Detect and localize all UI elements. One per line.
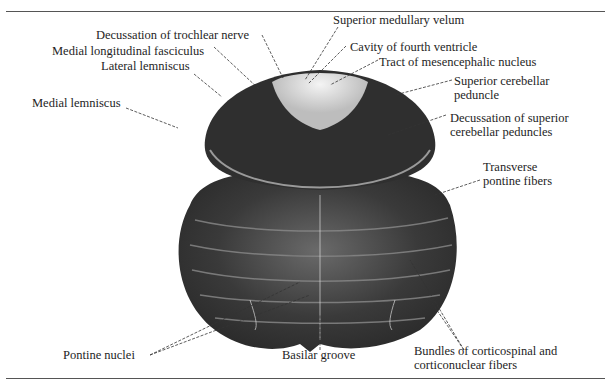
label-cavity-fourth-ventricle: Cavity of fourth ventricle [350, 40, 477, 54]
label-superior-cerebellar-peduncle-1: Superior cerebellar [454, 74, 549, 88]
label-bundles-1: Bundles of corticospinal and [414, 344, 557, 358]
label-bundles-2: corticonuclear fibers [414, 358, 517, 372]
label-transverse-pontine-1: Transverse [483, 160, 537, 174]
label-superior-cerebellar-peduncle-2: peduncle [454, 88, 499, 102]
label-pontine-nuclei: Pontine nuclei [63, 348, 135, 362]
label-medial-lemniscus: Medial lemniscus [32, 96, 121, 110]
label-transverse-pontine-2: pontine fibers [483, 174, 552, 188]
label-superior-medullary-velum: Superior medullary velum [333, 13, 464, 27]
label-decussation-scp-2: cerebellar peduncles [450, 125, 552, 139]
label-decussation-trochlear: Decussation of trochlear nerve [96, 28, 249, 42]
label-basilar-groove: Basilar groove [282, 348, 355, 362]
label-decussation-scp-1: Decussation of superior [450, 111, 569, 125]
label-medial-longitudinal-fasciculus: Medial longitudinal fasciculus [52, 44, 204, 58]
label-lateral-lemniscus: Lateral lemniscus [101, 59, 190, 73]
label-tract-mesencephalic: Tract of mesencephalic nucleus [379, 55, 536, 69]
